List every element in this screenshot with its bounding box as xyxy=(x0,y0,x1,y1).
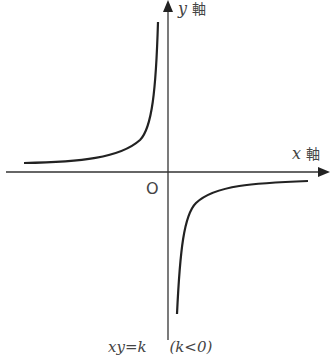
y-axis-arrow-icon xyxy=(163,0,173,12)
hyperbola-branch-upper-left xyxy=(24,22,158,163)
caption: xy=k (k<0) xyxy=(108,338,212,356)
x-axis-arrow-icon xyxy=(318,167,330,177)
x-axis-label: x 軸 xyxy=(292,143,320,163)
y-axis-label: y 軸 xyxy=(178,0,206,18)
origin-label: O xyxy=(146,179,159,198)
hyperbola-branch-lower-right xyxy=(177,181,308,314)
hyperbola-diagram xyxy=(0,0,332,363)
